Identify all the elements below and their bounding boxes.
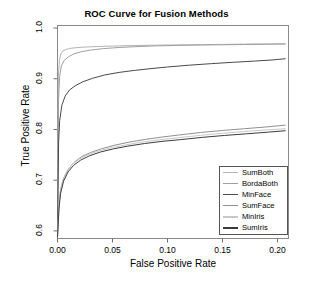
x-tick-label-1: 0.05: [93, 245, 133, 255]
legend-item-label: SumFace: [242, 202, 275, 210]
chart-legend: SumBothBordaBothMinFaceSumFaceMinIrisSum…: [219, 166, 288, 235]
legend-item-label: SumBoth: [242, 169, 273, 177]
legend-item-sumiris: SumIris: [220, 222, 287, 233]
legend-item-miniris: MinIris: [220, 211, 287, 222]
plot-area: [0, 0, 313, 283]
x-tick-label-0: 0.00: [38, 245, 78, 255]
legend-item-minface: MinFace: [220, 189, 287, 200]
legend-item-bordaboth: BordaBoth: [220, 178, 287, 189]
legend-line-icon: [223, 194, 238, 195]
legend-item-label: SumIris: [242, 224, 268, 232]
x-tick-label-3: 0.15: [203, 245, 243, 255]
legend-line-icon: [223, 216, 238, 217]
legend-item-label: MinFace: [242, 191, 271, 199]
x-tick-label-2: 0.10: [148, 245, 188, 255]
x-tick-label-4: 0.20: [258, 245, 298, 255]
legend-line-icon: [223, 227, 238, 228]
y-tick-label-2: 0.8: [34, 113, 44, 143]
legend-item-sumface: SumFace: [220, 200, 287, 211]
legend-item-label: MinIris: [242, 213, 264, 221]
y-tick-label-4: 1.0: [34, 12, 44, 42]
legend-line-icon: [223, 183, 238, 184]
y-tick-label-0: 0.6: [34, 215, 44, 245]
y-tick-label-3: 0.9: [34, 63, 44, 93]
y-axis-label: True Positive Rate: [20, 46, 31, 206]
y-tick-label-1: 0.7: [34, 164, 44, 194]
legend-line-icon: [223, 205, 238, 206]
x-axis-label: False Positive Rate: [57, 258, 289, 269]
roc-chart-figure: ROC Curve for Fusion Methods True Positi…: [0, 0, 313, 283]
legend-item-label: BordaBoth: [242, 180, 278, 188]
legend-item-sumboth: SumBoth: [220, 167, 287, 178]
legend-line-icon: [223, 172, 238, 173]
